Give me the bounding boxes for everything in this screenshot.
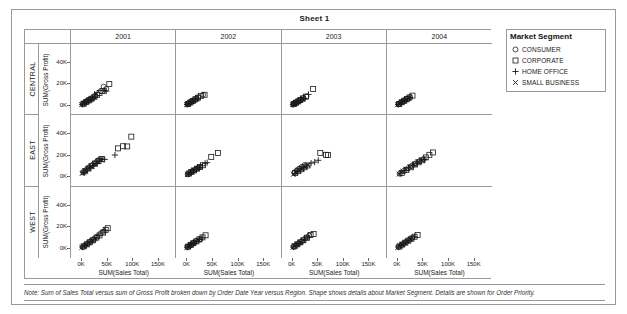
y-axis-title-text: SUM(Gross Profit) (42, 124, 49, 177)
y-tick-mark (67, 176, 70, 177)
x-tick-0K: 0K (288, 261, 295, 267)
scatter-points (282, 187, 387, 258)
legend-item-home-office[interactable]: HOME OFFICE (510, 66, 602, 77)
column-header-band: 2001200220032004 (25, 30, 492, 44)
legend-item-label: HOME OFFICE (522, 68, 568, 75)
column-header-2001: 2001 (71, 30, 176, 44)
x-axis-2001: 0K50K100K150KSUM(Sales Total) (71, 258, 176, 280)
column-header-corner (25, 30, 71, 44)
trellis-chart: 2001200220032004 CENTRALSUM(Gross Profit… (24, 29, 491, 279)
scatter-panel-WEST-2001[interactable] (71, 187, 176, 258)
x-tick-150K: 150K (467, 261, 481, 267)
scatter-panel-WEST-2002[interactable] (176, 187, 281, 258)
screenshot-root: Sheet 1 2001200220032004 CENTRALSUM(Gros… (0, 0, 627, 314)
x-tick-0K: 0K (393, 261, 400, 267)
y-tick-mark (67, 62, 70, 63)
row-header-EAST: EAST (25, 115, 39, 186)
scatter-points (282, 115, 387, 186)
scatter-points (71, 115, 176, 186)
y-axis-title: SUM(Gross Profit) (39, 115, 51, 186)
scatter-panel-CENTRAL-2004[interactable] (387, 44, 492, 115)
scatter-panel-EAST-2003[interactable] (282, 115, 387, 186)
y-tick-labels: 0K20K40K (51, 187, 71, 258)
y-tick-mark (67, 155, 70, 156)
x-axis-title: SUM(Sales Total) (176, 269, 281, 276)
scatter-panel-WEST-2004[interactable] (387, 187, 492, 258)
legend-item-corporate[interactable]: CORPORATE (510, 55, 602, 66)
column-header-2002: 2002 (176, 30, 281, 44)
row-header-CENTRAL: CENTRAL (25, 44, 39, 115)
x-tick-100K: 100K (441, 261, 455, 267)
scatter-points (387, 115, 492, 186)
scatter-panel-CENTRAL-2002[interactable] (176, 44, 281, 115)
legend-title: Market Segment (510, 32, 602, 42)
page-title: Sheet 1 (12, 10, 617, 28)
x-axis-title: SUM(Sales Total) (387, 269, 492, 276)
x-tick-50K: 50K (312, 261, 323, 267)
x-tick-150K: 150K (151, 261, 165, 267)
y-tick-20K: 20K (56, 223, 67, 229)
y-tick-20K: 20K (56, 152, 67, 158)
x-tick-100K: 100K (231, 261, 245, 267)
scatter-panel-EAST-2001[interactable] (71, 115, 176, 186)
x-axis-2002: 0K50K100K150KSUM(Sales Total) (176, 258, 281, 280)
y-axis-title: SUM(Gross Profit) (39, 187, 51, 258)
scatter-panel-CENTRAL-2003[interactable] (282, 44, 387, 115)
legend-item-label: SMALL BUSINESS (522, 79, 579, 86)
scatter-points (176, 187, 281, 258)
scatter-points (176, 115, 281, 186)
scatter-panel-EAST-2004[interactable] (387, 115, 492, 186)
legend-item-label: CONSUMER (522, 46, 561, 53)
x-axis-2004: 0K50K100K150KSUM(Sales Total) (387, 258, 492, 280)
x-tick-50K: 50K (101, 261, 112, 267)
legend-item-consumer[interactable]: CONSUMER (510, 44, 602, 55)
y-tick-40K: 40K (56, 130, 67, 136)
caption-divider-top (24, 284, 605, 285)
scatter-panel-CENTRAL-2001[interactable] (71, 44, 176, 115)
row-header-label: EAST (28, 141, 35, 160)
row-header-WEST: WEST (25, 187, 39, 258)
x-axis-band: 0K50K100K150KSUM(Sales Total)0K50K100K15… (25, 258, 492, 280)
y-tick-0K: 0K (60, 245, 67, 251)
y-axis-title-text: SUM(Gross Profit) (42, 196, 49, 249)
legend-item-small-business[interactable]: SMALL BUSINESS (510, 77, 602, 88)
row-header-label: WEST (28, 212, 35, 233)
x-tick-0K: 0K (183, 261, 190, 267)
y-tick-mark (67, 205, 70, 206)
scatter-points (71, 187, 176, 258)
caption-divider-bottom (24, 300, 605, 301)
x-tick-50K: 50K (417, 261, 428, 267)
y-tick-40K: 40K (56, 59, 67, 65)
scatter-points (387, 44, 492, 115)
legend-item-label: CORPORATE (522, 57, 564, 64)
cross-icon (510, 77, 522, 88)
worksheet-frame: Sheet 1 2001200220032004 CENTRALSUM(Gros… (11, 9, 616, 305)
x-axis-2003: 0K50K100K150KSUM(Sales Total) (282, 258, 387, 280)
y-tick-mark (67, 248, 70, 249)
y-axis-title: SUM(Gross Profit) (39, 44, 51, 115)
y-tick-labels: 0K20K40K (51, 115, 71, 186)
y-tick-20K: 20K (56, 80, 67, 86)
scatter-points (71, 44, 176, 115)
x-tick-50K: 50K (207, 261, 218, 267)
x-tick-0K: 0K (77, 261, 84, 267)
y-tick-mark (67, 133, 70, 134)
legend-market-segment: Market Segment CONSUMERCORPORATEHOME OFF… (506, 29, 606, 92)
y-tick-labels: 0K20K40K (51, 44, 71, 115)
y-tick-mark (67, 226, 70, 227)
scatter-panel-WEST-2003[interactable] (282, 187, 387, 258)
y-tick-0K: 0K (60, 102, 67, 108)
column-header-2004: 2004 (387, 30, 492, 44)
row-header-label: CENTRAL (28, 62, 35, 97)
x-axis-title: SUM(Sales Total) (282, 269, 387, 276)
x-tick-100K: 100K (336, 261, 350, 267)
column-header-2003: 2003 (282, 30, 387, 44)
y-axis-title-text: SUM(Gross Profit) (42, 53, 49, 106)
scatter-points (176, 44, 281, 115)
legend-items: CONSUMERCORPORATEHOME OFFICESMALL BUSINE… (510, 44, 602, 88)
y-tick-40K: 40K (56, 202, 67, 208)
y-tick-mark (67, 105, 70, 106)
scatter-panel-EAST-2002[interactable] (176, 115, 281, 186)
y-tick-mark (67, 83, 70, 84)
x-tick-100K: 100K (125, 261, 139, 267)
